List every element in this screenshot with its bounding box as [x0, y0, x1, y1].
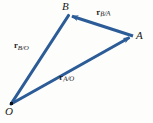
- vector-line-r-b-over-a: [72, 16, 133, 36]
- vector-label-r-b-over-o: rB/O: [14, 41, 29, 52]
- vector-subscript-b-over-o: B/O: [18, 44, 29, 52]
- point-label-b: B: [62, 1, 69, 12]
- vector-subscript-a-over-o: A/O: [63, 75, 74, 84]
- vector-diagram-figure: O A B rB/O rA/O rB/A: [0, 0, 153, 123]
- vector-label-r-b-over-a: rB/A: [96, 7, 111, 18]
- point-label-o: O: [5, 106, 13, 117]
- point-label-a: A: [136, 30, 143, 41]
- vector-diagram-canvas: [0, 0, 153, 123]
- vector-label-r-a-over-o: rA/O: [59, 72, 74, 83]
- vector-subscript-b-over-a: B/A: [100, 10, 111, 19]
- vector-line-r-b-over-o: [11, 16, 69, 105]
